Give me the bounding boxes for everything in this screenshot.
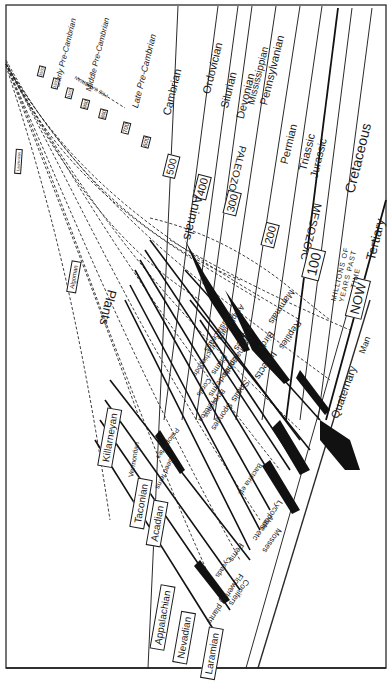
orogeny-laurentian: Laurentian	[14, 149, 23, 174]
period-tertiary: Tertiary	[363, 217, 388, 262]
time-marker-200: 200	[260, 221, 279, 248]
orogeny-appalachian: Appalachian	[149, 584, 175, 651]
group-seed-ferns: Seed ferns	[154, 457, 175, 491]
tick-800: 800	[98, 108, 108, 120]
orogeny-acadian: Acadian	[146, 499, 169, 547]
orogeny-killarneyan: Killarneyan	[97, 407, 122, 468]
label-late-precambrian: Late Pre-Cambrian	[130, 33, 158, 109]
group-mammals: Mammals	[266, 288, 296, 326]
time-marker-500: 500	[162, 154, 180, 179]
tick-1500: 1500	[37, 65, 46, 77]
group-crustaceans: Crustaceans	[202, 311, 235, 353]
orogeny-algoman: Algoman	[66, 261, 81, 294]
tick-900: 900	[80, 98, 90, 110]
period-ordovician: Ordovician	[200, 41, 224, 95]
tick-1300: 1300	[51, 77, 60, 89]
period-cambrian: Cambrian	[160, 67, 183, 116]
period-quaternary: Quaternary	[328, 364, 358, 420]
label-middle-precambrian: Middle Pre-Cambrian	[84, 17, 111, 93]
group-reptiles: Reptiles	[277, 319, 303, 352]
tick-600: 600	[141, 135, 152, 149]
branch-plants: Plants	[96, 288, 119, 327]
orogeny-vermontian: Vermontian	[127, 441, 140, 477]
branch-animals: Animals	[180, 193, 206, 242]
group-bacteria: Bacteria etc	[237, 462, 263, 497]
group-insects: Insects	[252, 349, 279, 381]
orogeny-nevadian: Nevadian	[172, 610, 196, 664]
group-birds: Birds	[256, 330, 276, 353]
label-man: Man	[357, 335, 372, 355]
tick-700: 700	[121, 121, 132, 135]
group-snails: Snails	[229, 378, 251, 404]
orogeny-laramian: Laramian	[200, 627, 224, 681]
tick-1100: 1100	[65, 88, 74, 100]
group-cycads: Cycads	[214, 556, 233, 579]
period-permian: Permian	[278, 123, 300, 166]
period-cretaceous: Cretaceous	[341, 121, 374, 194]
period-silurian: Silurian	[218, 71, 239, 110]
group-psilophytes: Psilophytes	[155, 427, 181, 461]
